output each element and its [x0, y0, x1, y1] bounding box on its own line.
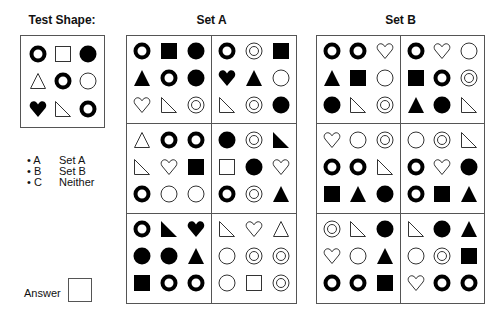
ring-icon — [29, 45, 47, 63]
set-a-divider — [127, 213, 296, 214]
heart-outline-icon — [245, 220, 263, 238]
shape-cell — [214, 153, 241, 180]
set-b-panel-5 — [319, 216, 398, 296]
shape-cell — [319, 243, 345, 270]
shape-cell — [267, 91, 294, 118]
set-b-panel-2 — [403, 38, 482, 118]
right-triangle-outline-icon — [349, 96, 367, 114]
ring-icon — [460, 274, 478, 292]
double-circle-icon — [187, 96, 205, 114]
shape-cell — [156, 269, 183, 296]
double-circle-icon — [376, 131, 394, 149]
shape-cell — [456, 126, 482, 153]
triangle-outline-icon — [133, 131, 151, 149]
shape-cell — [372, 65, 398, 92]
ring-icon — [160, 274, 178, 292]
shape-cell — [241, 126, 268, 153]
shape-cell — [456, 153, 482, 180]
double-circle-icon — [245, 96, 263, 114]
shape-cell — [214, 269, 241, 296]
triangle-filled-icon — [133, 69, 151, 87]
square-outline-icon — [218, 158, 236, 176]
shape-cell — [50, 40, 75, 68]
set-a-panel-3 — [129, 126, 209, 208]
circle-outline-icon — [349, 247, 367, 265]
shape-cell — [319, 91, 345, 118]
triangle-filled-icon — [407, 96, 425, 114]
disc-icon — [218, 131, 236, 149]
shape-cell — [50, 95, 75, 123]
circle-outline-icon — [79, 72, 97, 90]
test-shape-box — [20, 35, 105, 128]
circle-outline-icon — [460, 42, 478, 60]
shape-cell — [156, 91, 183, 118]
shape-cell — [267, 243, 294, 270]
shape-cell — [372, 91, 398, 118]
shape-cell — [182, 65, 209, 92]
shape-cell — [403, 269, 429, 296]
ring-icon — [407, 42, 425, 60]
shape-cell — [241, 243, 268, 270]
shape-cell — [456, 91, 482, 118]
shape-cell — [429, 181, 455, 208]
shape-cell — [345, 216, 371, 243]
shape-cell — [214, 38, 241, 65]
shape-cell — [267, 38, 294, 65]
shape-cell — [241, 65, 268, 92]
shape-cell — [267, 269, 294, 296]
square-filled-icon — [349, 69, 367, 87]
answer-input-box[interactable] — [68, 278, 92, 302]
circle-outline-icon — [272, 69, 290, 87]
shape-cell — [372, 126, 398, 153]
shape-cell — [456, 269, 482, 296]
shape-cell — [456, 216, 482, 243]
shape-cell — [429, 216, 455, 243]
shape-cell — [214, 216, 241, 243]
right-triangle-filled-icon — [272, 131, 290, 149]
ring-icon — [323, 274, 341, 292]
heart-outline-icon — [133, 96, 151, 114]
shape-cell — [182, 216, 209, 243]
ring-icon — [79, 100, 97, 118]
shape-cell — [129, 38, 156, 65]
shape-cell — [25, 40, 50, 68]
shape-cell — [267, 153, 294, 180]
triangle-outline-icon — [29, 72, 47, 90]
set-b-divider — [400, 36, 401, 303]
set-a-panel-6 — [214, 216, 294, 296]
set-b-panel-4 — [403, 126, 482, 208]
ring-icon — [160, 131, 178, 149]
shape-cell — [214, 126, 241, 153]
ring-icon — [349, 158, 367, 176]
shape-cell — [156, 243, 183, 270]
shape-cell — [156, 216, 183, 243]
triangle-filled-icon — [323, 69, 341, 87]
double-circle-icon — [433, 131, 451, 149]
shape-cell — [403, 65, 429, 92]
disc-icon — [79, 45, 97, 63]
ring-icon — [54, 72, 72, 90]
shape-cell — [156, 65, 183, 92]
shape-cell — [241, 153, 268, 180]
set-a-panel-1 — [129, 38, 209, 118]
shape-cell — [267, 181, 294, 208]
double-circle-icon — [433, 247, 451, 265]
heart-outline-icon — [433, 42, 451, 60]
shape-cell — [241, 91, 268, 118]
disc-icon — [460, 158, 478, 176]
shape-cell — [319, 38, 345, 65]
square-filled-icon — [433, 185, 451, 203]
shape-cell — [129, 91, 156, 118]
shape-cell — [403, 181, 429, 208]
shape-cell — [319, 153, 345, 180]
set-a-panel-2 — [214, 38, 294, 118]
double-circle-icon — [245, 42, 263, 60]
shape-cell — [75, 68, 100, 96]
shape-cell — [429, 269, 455, 296]
heart-filled-icon — [218, 69, 236, 87]
ring-icon — [160, 69, 178, 87]
heart-outline-icon — [407, 274, 425, 292]
shape-cell — [403, 153, 429, 180]
shape-cell — [129, 181, 156, 208]
shape-cell — [345, 38, 371, 65]
